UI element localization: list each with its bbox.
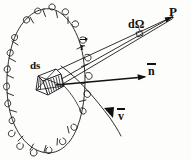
label-radius-vector-text: r (80, 41, 85, 52)
velocity-arc (61, 66, 121, 136)
label-radius-vector: r (80, 41, 85, 52)
hatched-parallelogram (36, 69, 64, 95)
label-normal-vector: n (148, 65, 155, 77)
physics-diagram-figure: P dΩ r ds n v (0, 0, 191, 161)
label-point-p: P (169, 5, 177, 18)
diagram-canvas (0, 0, 191, 161)
label-surface-element: ds (30, 60, 40, 71)
label-normal-vector-text: n (148, 65, 155, 77)
ring-behind-patch (64, 86, 82, 114)
label-velocity-vector-text: v (118, 110, 124, 122)
label-velocity-vector: v (118, 110, 124, 122)
label-solid-angle: dΩ (128, 18, 144, 30)
